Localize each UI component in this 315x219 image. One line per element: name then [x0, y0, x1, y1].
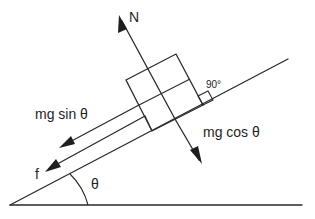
block-inner-connector — [145, 116, 152, 131]
normal-force-line — [122, 21, 175, 119]
block-inner-line — [139, 79, 190, 105]
normal-force-label: N — [129, 9, 139, 25]
mg-sin-label: mg sin θ — [35, 106, 88, 122]
friction-arrowhead — [45, 159, 61, 172]
normal-force-arrowhead — [118, 15, 127, 33]
free-body-diagram: θ 90° N mg cos θ mg sin θ f — [0, 0, 315, 219]
angle-arc — [70, 174, 88, 205]
right-angle-label: 90° — [206, 79, 221, 90]
angle-label: θ — [91, 176, 99, 192]
friction-label: f — [35, 166, 39, 182]
mg-sin-arrowhead — [59, 136, 75, 148]
mg-cos-label: mg cos θ — [203, 124, 260, 140]
